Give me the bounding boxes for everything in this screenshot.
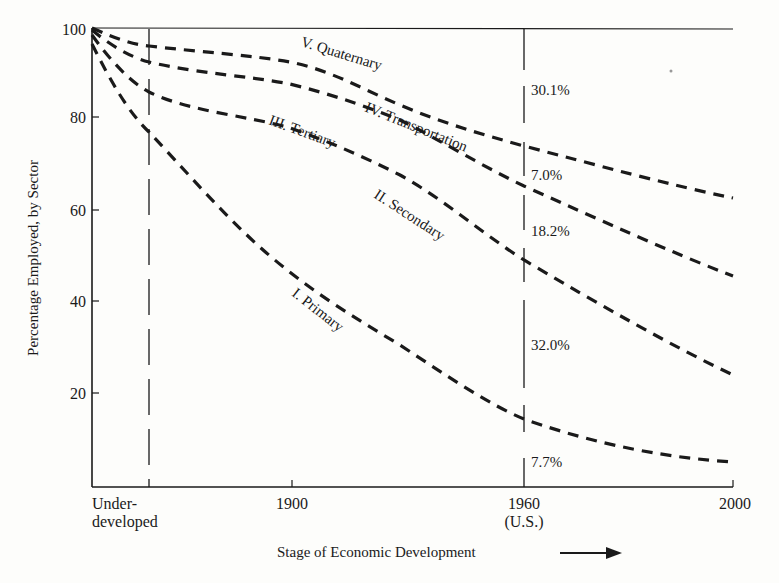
x-tick-label-1900: 1900	[276, 495, 308, 512]
right-arrow-icon	[560, 547, 622, 559]
x-tick-label-1960: 1960	[508, 495, 540, 512]
share-1960-transportation: 7.0%	[531, 167, 562, 183]
share-1960-secondary: 32.0%	[531, 337, 570, 353]
curve-transportation-boundary	[92, 30, 733, 276]
y-tick-label-40: 40	[70, 293, 86, 310]
share-1960-quaternary: 30.1%	[531, 82, 570, 98]
y-axis-title: Percentage Employed, by Sector	[25, 160, 41, 356]
share-1960-primary: 7.7%	[531, 454, 562, 470]
sector-employment-chart: 100 80 60 40 20 Percentage Employed, by …	[0, 0, 779, 583]
y-tick-label-100: 100	[62, 21, 86, 38]
label-secondary: II. Secondary	[371, 186, 448, 244]
y-tick-label-20: 20	[70, 385, 86, 402]
label-tertiary: III. Tertiary	[267, 112, 338, 151]
x-tick-label-underdeveloped-line1: Under-	[92, 495, 137, 512]
scan-speck	[670, 70, 673, 73]
x-axis-title: Stage of Economic Development	[277, 544, 477, 560]
label-primary: I. Primary	[289, 285, 347, 335]
label-quaternary: V. Quaternary	[299, 34, 384, 74]
x-tick-label-underdeveloped-line2: developed	[92, 513, 158, 531]
sector-curves	[92, 28, 733, 462]
y-tick-label-60: 60	[70, 202, 86, 219]
label-transportation: IV. Transportation	[363, 99, 470, 155]
x-tick-label-2000: 2000	[719, 495, 751, 512]
y-ticks	[92, 117, 99, 393]
curve-tertiary-boundary	[92, 35, 733, 375]
top-100-line	[92, 28, 733, 29]
y-tick-label-80: 80	[70, 109, 86, 126]
x-tick-label-1960-us: (U.S.)	[504, 513, 543, 531]
share-1960-tertiary: 18.2%	[531, 223, 570, 239]
